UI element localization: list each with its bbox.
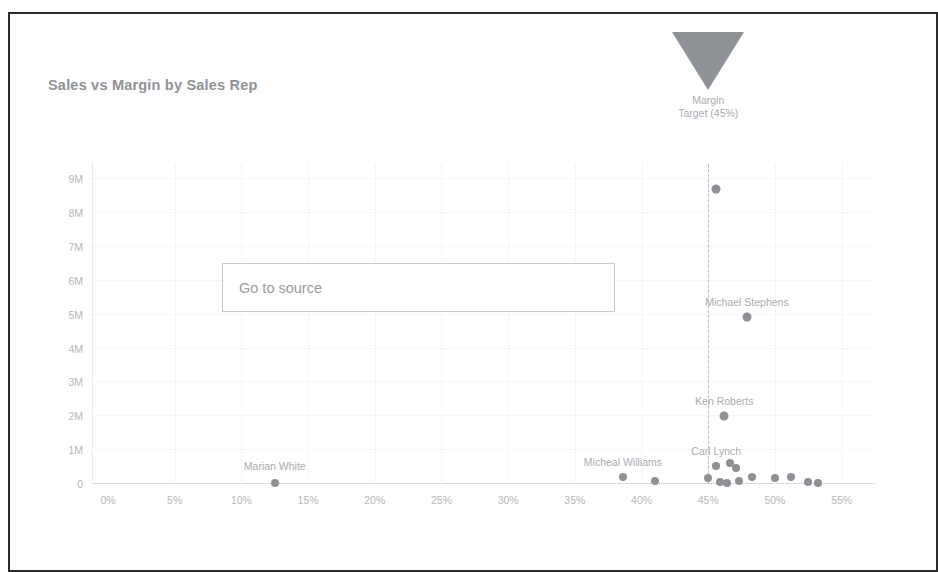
scatter-point[interactable] [271,479,279,487]
scatter-point[interactable] [619,473,627,481]
y-axis-tick-label: 6M [68,275,83,287]
go-to-source-button[interactable]: Go to source [222,263,615,312]
chart-frame: Sales vs Margin by Sales Rep 01M2M3M4M5M… [8,12,938,572]
margin-target-label: MarginTarget (45%) [678,94,738,120]
x-axis-tick-label: 40% [631,494,652,506]
gridline-horizontal [92,483,875,484]
x-axis-tick-label: 15% [298,494,319,506]
gridline-horizontal [92,246,875,247]
x-axis-tick-label: 30% [498,494,519,506]
gridline-horizontal [92,415,875,416]
gridline-vertical [642,164,643,484]
scatter-point[interactable] [712,185,721,194]
scatter-point[interactable] [704,474,712,482]
margin-target-line [708,164,709,484]
y-axis-tick-label: 3M [68,376,83,388]
x-axis-tick-label: 45% [698,494,719,506]
x-axis-tick-label: 10% [231,494,252,506]
x-axis-tick-label: 50% [764,494,785,506]
gridline-horizontal [92,212,875,213]
x-axis-tick-label: 25% [431,494,452,506]
scatter-point[interactable] [742,313,751,322]
scatter-point[interactable] [814,479,822,487]
gridline-horizontal [92,449,875,450]
scatter-point-label: Carl Lynch [691,445,741,457]
gridline-vertical [175,164,176,484]
x-axis-tick-label: 0% [100,494,115,506]
x-axis-tick-label: 55% [831,494,852,506]
y-axis-tick-label: 0 [77,478,83,490]
gridline-vertical [842,164,843,484]
scatter-point[interactable] [771,474,779,482]
x-axis-tick-label: 5% [167,494,182,506]
gridline-vertical [575,164,576,484]
x-axis-tick-label: 35% [564,494,585,506]
scatter-point[interactable] [735,477,743,485]
scatter-point[interactable] [712,462,720,470]
y-axis-tick-label: 8M [68,207,83,219]
x-axis-tick-label: 20% [364,494,385,506]
scatter-point-label: Marian White [244,460,306,472]
margin-target-label-line1: Margin [678,94,738,107]
scatter-point-label: Micheal Williams [584,456,662,468]
scatter-point[interactable] [748,473,756,481]
margin-target-label-line2: Target (45%) [678,107,738,120]
scatter-point[interactable] [651,477,659,485]
gridline-vertical [508,164,509,484]
y-axis-tick-label: 5M [68,309,83,321]
y-axis-tick-label: 2M [68,410,83,422]
gridline-horizontal [92,348,875,349]
gridline-horizontal [92,381,875,382]
y-axis-tick-label: 4M [68,343,83,355]
gridline-vertical [375,164,376,484]
scatter-plot-area: 01M2M3M4M5M6M7M8M9M0%5%10%15%20%25%30%35… [92,164,875,484]
gridline-horizontal [92,178,875,179]
gridline-vertical [775,164,776,484]
scatter-point[interactable] [732,464,740,472]
scatter-point-label: Michael Stephens [705,296,788,308]
y-axis-tick-label: 9M [68,173,83,185]
go-to-source-label: Go to source [239,280,322,296]
gridline-vertical [308,164,309,484]
scatter-point-label: Ken Roberts [695,395,753,407]
scatter-point[interactable] [804,478,812,486]
scatter-point[interactable] [723,479,731,487]
gridline-horizontal [92,314,875,315]
y-axis-tick-label: 7M [68,241,83,253]
gridline-vertical [441,164,442,484]
scatter-point[interactable] [787,473,795,481]
page-title: Sales vs Margin by Sales Rep [48,77,258,93]
gridline-vertical [241,164,242,484]
y-axis-tick-label: 1M [68,444,83,456]
scatter-point[interactable] [720,412,729,421]
margin-target-triangle-icon [672,32,744,90]
